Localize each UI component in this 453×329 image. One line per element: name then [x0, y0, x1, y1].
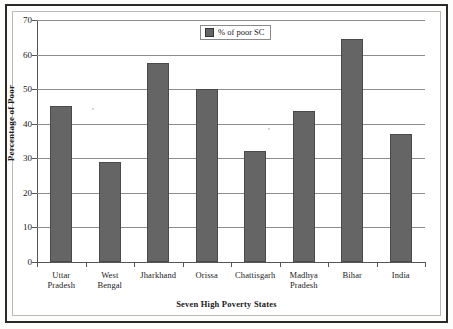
y-axis-tick-label: 60	[10, 51, 32, 60]
x-axis-tick	[37, 263, 38, 267]
y-axis-tick	[32, 55, 37, 56]
y-axis-tick-label: 0	[10, 258, 32, 267]
bar	[99, 162, 121, 262]
y-axis-tick-label: 40	[10, 120, 32, 129]
y-axis-tick	[32, 227, 37, 228]
gridline	[37, 89, 425, 90]
x-axis-tick	[280, 263, 281, 267]
bar	[341, 39, 363, 262]
y-axis-tick-label: 20	[10, 189, 32, 198]
x-axis-tick-label-line: India	[371, 270, 432, 280]
legend-label: % of poor SC	[218, 27, 265, 37]
gridline	[37, 227, 425, 228]
x-axis-tick-label-line: Bengal	[80, 280, 141, 290]
y-axis-tick	[32, 89, 37, 90]
bar	[196, 89, 218, 262]
x-axis-tick-label: India	[371, 270, 432, 280]
bar	[244, 151, 266, 262]
gridline	[37, 55, 425, 56]
x-axis-tick	[183, 263, 184, 267]
x-axis-tick	[377, 263, 378, 267]
gridline	[37, 20, 425, 21]
plot-area	[37, 20, 425, 262]
x-axis-tick	[134, 263, 135, 267]
y-axis-tick	[32, 124, 37, 125]
legend-swatch-icon	[205, 28, 214, 37]
y-axis-tick-label: 50	[10, 85, 32, 94]
chart-legend: % of poor SC	[200, 25, 271, 40]
y-axis-tick	[32, 158, 37, 159]
y-axis-tick	[32, 193, 37, 194]
bar	[293, 111, 315, 262]
x-axis-tick-label-line: Pradesh	[274, 280, 335, 290]
y-axis-tick-label: 70	[10, 16, 32, 25]
bar	[390, 134, 412, 262]
y-axis-tick-label: 30	[10, 154, 32, 163]
bar	[147, 63, 169, 262]
y-axis-tick	[32, 20, 37, 21]
gridline	[37, 193, 425, 194]
x-axis-tick	[86, 263, 87, 267]
x-axis-title: Seven High Poverty States	[0, 299, 453, 309]
gridline	[37, 124, 425, 125]
y-axis-tick-label: 10	[10, 223, 32, 232]
x-axis-tick	[231, 263, 232, 267]
bar	[50, 106, 72, 262]
x-axis-tick	[425, 263, 426, 267]
chart-screenshot: Percentage of Poor 706050403020100 Uttar…	[0, 0, 453, 329]
x-axis-tick	[328, 263, 329, 267]
y-axis-tick-labels: 706050403020100	[8, 20, 32, 262]
gridline	[37, 158, 425, 159]
